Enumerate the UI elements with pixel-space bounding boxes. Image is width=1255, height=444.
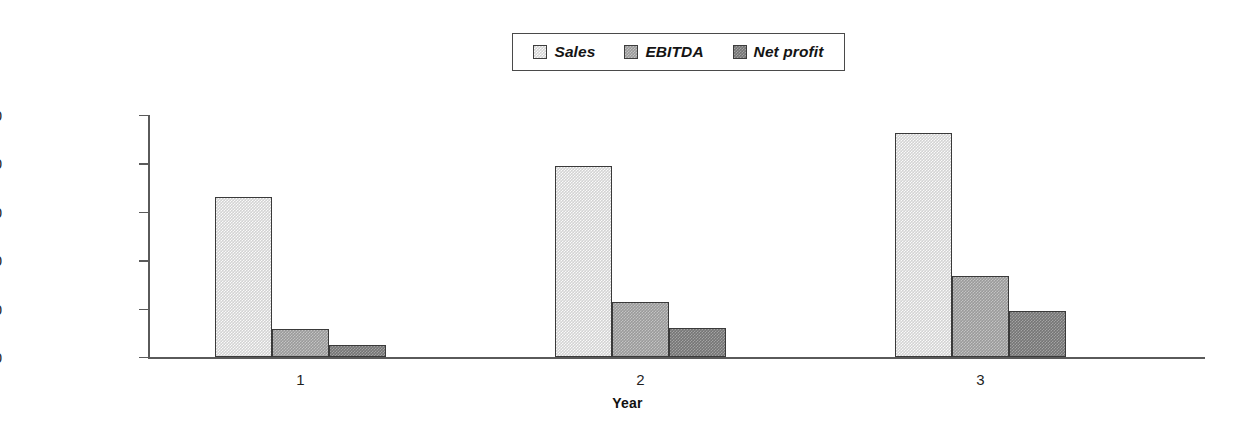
bar-group	[215, 115, 386, 357]
legend-swatch-ebitda-icon	[624, 45, 638, 59]
legend-label-net-profit: Net profit	[754, 43, 824, 61]
bar-chart: Sales EBITDA Net profit $500,000 $400,00…	[0, 0, 1255, 444]
y-tick-label-200000: $200,000	[0, 252, 2, 269]
y-tick-300000	[139, 212, 148, 213]
legend-swatch-net-profit-icon	[733, 45, 747, 59]
y-axis-line	[148, 115, 150, 357]
y-tick-label-100000: $100,000	[0, 300, 2, 317]
bar	[612, 302, 669, 357]
y-tick-100000	[139, 309, 148, 310]
legend-swatch-sales-icon	[533, 45, 547, 59]
y-tick-400000	[139, 163, 148, 164]
x-tick-label: 2	[636, 371, 644, 388]
chart-legend: Sales EBITDA Net profit	[512, 33, 845, 71]
legend-item-ebitda: EBITDA	[624, 43, 703, 61]
y-tick-0	[139, 357, 148, 358]
x-tick-label: 3	[976, 371, 984, 388]
legend-label-sales: Sales	[554, 43, 595, 61]
bar	[329, 345, 386, 357]
bar	[215, 197, 272, 357]
bar	[555, 166, 612, 357]
legend-item-net-profit: Net profit	[733, 43, 824, 61]
y-tick-label-300000: $300,000	[0, 203, 2, 220]
bar	[1009, 311, 1066, 357]
bar	[895, 133, 952, 357]
x-axis-title: Year	[0, 395, 1255, 411]
x-tick-label: 1	[296, 371, 304, 388]
bar-group	[555, 115, 726, 357]
plot-area: 123	[148, 115, 1205, 357]
y-tick-200000	[139, 260, 148, 261]
legend-item-sales: Sales	[533, 43, 595, 61]
x-axis-line	[148, 357, 1205, 359]
bar	[272, 329, 329, 357]
y-tick-500000	[139, 115, 148, 116]
y-tick-label-0: $0	[0, 349, 2, 366]
bar-group	[895, 115, 1066, 357]
y-tick-label-400000: $400,000	[0, 155, 2, 172]
bar	[952, 276, 1009, 357]
legend-label-ebitda: EBITDA	[645, 43, 703, 61]
bar	[669, 328, 726, 357]
y-tick-label-500000: $500,000	[0, 107, 2, 124]
